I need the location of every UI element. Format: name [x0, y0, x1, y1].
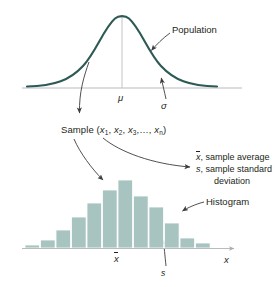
histogram-pointer-arrow: [183, 202, 205, 211]
sample-text-prefix: Sample (: [61, 124, 100, 135]
histogram-bar: [103, 190, 118, 248]
histogram-bar: [87, 203, 102, 248]
sample-ellipsis: ,…,: [136, 124, 151, 135]
statistics-line-average: x, sample average: [196, 152, 272, 164]
mu-label: μ: [118, 92, 123, 103]
statistics-diagram: [0, 0, 279, 287]
histogram-bar: [180, 238, 195, 248]
sample-to-histogram-arrow: [74, 139, 103, 180]
histogram-bar: [134, 196, 149, 248]
sample-x2-sub: 2: [119, 129, 123, 136]
histogram-bar: [149, 207, 164, 248]
histogram-bars: [25, 180, 210, 248]
x-axis-label: x: [224, 254, 229, 265]
histogram-label: Histogram: [206, 196, 249, 207]
histogram-bar: [118, 180, 133, 248]
statistics-average-text: , sample average: [201, 152, 270, 162]
histogram-bar: [25, 245, 40, 248]
statistics-line-deviation: deviation: [196, 176, 272, 188]
statistics-label: x, sample average s, sample standard dev…: [196, 152, 272, 188]
sigma-label: σ: [161, 100, 167, 111]
s-axis-label: s: [161, 268, 165, 278]
histogram-bar: [72, 217, 87, 248]
sample-text-suffix: ): [163, 124, 166, 135]
x-bar-symbol: x: [196, 152, 201, 164]
sample-to-statistics-arrow: [103, 138, 190, 167]
histogram-plot: [22, 180, 234, 249]
statistics-line-sd: s, sample standard: [196, 164, 272, 176]
sample-label: Sample (x1, x2, x3,…, xn): [61, 124, 166, 136]
population-label: Population: [172, 24, 217, 35]
x-bar-axis-label: x: [114, 253, 119, 264]
histogram-bar: [41, 240, 56, 248]
x-bar-axis-symbol: x: [114, 253, 119, 264]
histogram-bar: [56, 230, 71, 248]
statistics-sd-text: , sample standard: [201, 164, 273, 174]
histogram-bar: [165, 223, 180, 248]
histogram-bar: [196, 243, 211, 248]
sample-x1-sub: 1: [105, 129, 109, 136]
population-pointer-arrow: [152, 33, 171, 51]
